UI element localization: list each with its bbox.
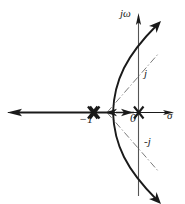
imaginary-axis-label: jω xyxy=(120,8,131,19)
j-positive-label: j xyxy=(144,68,147,79)
j-negative-label: -j xyxy=(144,136,151,147)
locus-branch-lower xyxy=(113,113,157,201)
root-locus-figure: jω σ j -j −1 0 xyxy=(0,0,185,204)
asymptote-upper xyxy=(107,53,159,113)
origin-label: 0 xyxy=(130,112,136,124)
real-axis-label: σ xyxy=(167,110,172,121)
root-locus-svg xyxy=(0,0,185,204)
pole-label-minus-one: −1 xyxy=(79,113,93,125)
locus-branch-upper xyxy=(113,25,157,113)
